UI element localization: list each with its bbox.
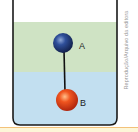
credit-text: Reprodução/Arquivo da editora — [123, 10, 129, 89]
connecting-rod — [64, 50, 65, 92]
image-credit: Reprodução/Arquivo da editora — [120, 2, 132, 98]
bottom-band — [0, 127, 138, 132]
sphere-b — [56, 89, 78, 111]
label-a: A — [79, 41, 85, 51]
sphere-a — [53, 33, 73, 53]
label-b: B — [80, 98, 86, 108]
beaker-diagram: A B — [12, 0, 118, 126]
